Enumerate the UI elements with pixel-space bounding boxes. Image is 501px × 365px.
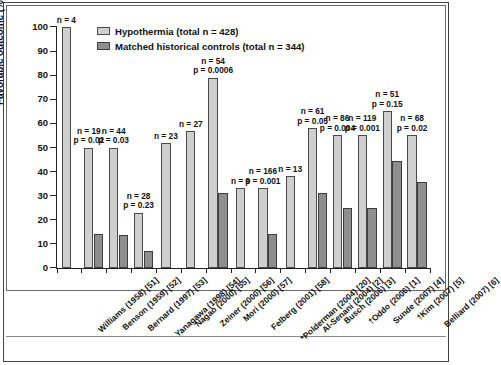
annotation-n: n = 23 [140,132,192,142]
bar-control [318,193,327,268]
x-tick-1 [81,268,82,273]
bar-control [144,251,153,268]
x-tick-15 [430,268,431,273]
annotation-n: n = 13 [264,165,316,175]
legend-label-hypothermia: Hypothermia (total n = 428) [115,26,238,37]
bar-control [417,182,426,268]
chart-legend: Hypothermia (total n = 428) Matched hist… [97,24,305,54]
bar-hypothermia [186,131,195,268]
bar-hypothermia [134,213,143,268]
annotation-p: p = 0.23 [113,201,165,211]
y-tick-40 [50,171,57,172]
y-tick-100 [50,26,57,27]
legend-label-controls: Matched historical controls (total n = 3… [115,41,305,52]
bar-hypothermia [236,188,245,268]
bar-hypothermia [208,78,217,268]
annotation-p: p = 0.02 [386,124,438,134]
x-tick-7 [231,268,232,273]
bar-control [218,193,227,268]
x-tick-2 [106,268,107,273]
x-tick-9 [280,268,281,273]
x-axis-line [56,268,431,269]
bar-annotation: n = 13 [264,165,316,175]
annotation-p: p = 0.001 [237,177,289,187]
x-tick-6 [206,268,207,273]
bar-hypothermia [258,188,267,268]
bar-annotation: n = 44p = 0.03 [88,127,140,146]
bar-hypothermia [286,176,295,268]
y-tick-70 [50,99,57,100]
legend-swatch-controls [97,42,110,50]
x-tick-4 [156,268,157,273]
annotation-n: n = 4 [40,16,92,26]
bar-annotation: n = 23 [140,132,192,142]
y-tick-50 [50,147,57,148]
bar-control [343,208,352,268]
x-tick-0 [57,268,58,273]
annotation-p: p = 0.15 [361,100,413,110]
y-tick-30 [50,195,57,196]
figure-caption-divider [6,336,446,337]
bar-annotation: n = 27 [165,120,217,130]
annotation-n: n = 27 [165,120,217,130]
x-tick-13 [380,268,381,273]
y-tick-label-90: 90 [22,45,48,56]
y-tick-label-50: 50 [22,142,48,153]
annotation-p: p = 0.0006 [187,66,239,76]
y-tick-20 [50,219,57,220]
y-tick-label-40: 40 [22,166,48,177]
bar-annotation: n = 54p = 0.0006 [187,57,239,76]
bar-annotation: n = 4 [40,16,92,26]
x-tick-8 [255,268,256,273]
legend-item-hypothermia: Hypothermia (total n = 428) [97,24,305,38]
legend-item-controls: Matched historical controls (total n = 3… [97,39,305,53]
bar-annotation: n = 28p = 0.23 [113,192,165,211]
annotation-p: p = 0.03 [88,136,140,146]
x-tick-14 [405,268,406,273]
legend-swatch-hypothermia [97,27,110,35]
bar-control [392,161,401,268]
x-tick-3 [131,268,132,273]
bar-hypothermia [308,128,317,268]
bar-control [119,235,128,268]
y-tick-60 [50,123,57,124]
x-tick-5 [181,268,182,273]
y-tick-label-30: 30 [22,190,48,201]
bar-annotation: n = 119p = 0.001 [336,114,388,133]
bar-control [268,234,277,268]
y-tick-80 [50,75,57,76]
annotation-p: p = 0.001 [336,124,388,134]
y-tick-label-10: 10 [22,238,48,249]
y-tick-label-80: 80 [22,69,48,80]
bar-hypothermia [333,135,342,268]
y-tick-90 [50,51,57,52]
bar-hypothermia [383,111,392,268]
y-tick-label-0: 0 [22,262,48,273]
bar-hypothermia [84,148,93,269]
y-tick-label-70: 70 [22,93,48,104]
bar-hypothermia [407,135,416,268]
bar-control [367,208,376,268]
y-tick-label-20: 20 [22,214,48,225]
x-tick-11 [330,268,331,273]
y-axis-title: Favorable outcome (%) [0,0,5,105]
x-tick-10 [305,268,306,273]
bar-hypothermia [62,27,71,268]
y-tick-label-60: 60 [22,117,48,128]
y-tick-10 [50,243,57,244]
bar-control [94,234,103,268]
x-tick-12 [355,268,356,273]
bar-annotation: n = 51p = 0.15 [361,90,413,109]
bar-hypothermia [358,135,367,268]
bar-annotation: n = 68p = 0.02 [386,114,438,133]
